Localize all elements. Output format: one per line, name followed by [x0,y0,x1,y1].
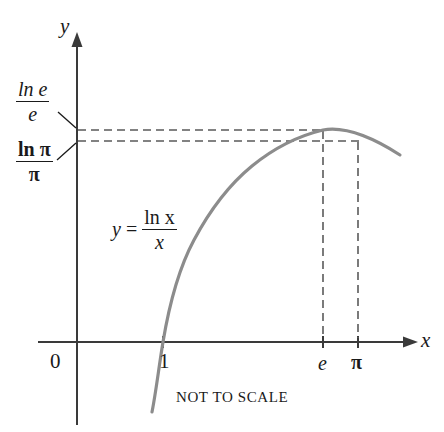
leader-line-lnpi-over-pi [57,143,76,160]
leader-lines-group [57,112,76,160]
y-value-numerator-lne: ln e [16,78,49,102]
curve-equation-label: y = ln x x [112,206,177,254]
x-axis-arrowhead [403,337,418,348]
y-value-numerator-lnpi: ln π [16,138,53,162]
y-axis-arrowhead [72,32,83,47]
equation-numerator: ln x [142,206,177,230]
x-tick-label-1: 1 [159,351,170,372]
y-value-label-lnpi-over-pi: ln π π [16,138,53,186]
axis-label-y: y [60,16,69,37]
leader-line-lne-over-e [58,112,76,128]
plot-canvas [0,0,444,432]
y-value-denominator-pi: π [16,162,53,185]
equation-lhs: y [112,218,121,241]
equation-denominator: x [142,230,177,253]
y-value-label-lne-over-e: ln e e [16,78,49,126]
not-to-scale-note: NOT TO SCALE [176,390,288,405]
x-tick-label-e: e [318,353,327,373]
equation-equals-sign: = [126,218,137,241]
x-tick-label-pi: π [351,352,362,372]
figure-root: y x 0 1 e π ln e e ln π π y = ln x x NOT… [0,0,444,432]
curve-ln-x-over-x [152,129,400,412]
axis-label-x: x [421,330,430,351]
equation-fraction: ln x x [142,206,177,254]
x-tick-label-0: 0 [50,351,61,372]
y-value-denominator-e: e [16,102,49,125]
